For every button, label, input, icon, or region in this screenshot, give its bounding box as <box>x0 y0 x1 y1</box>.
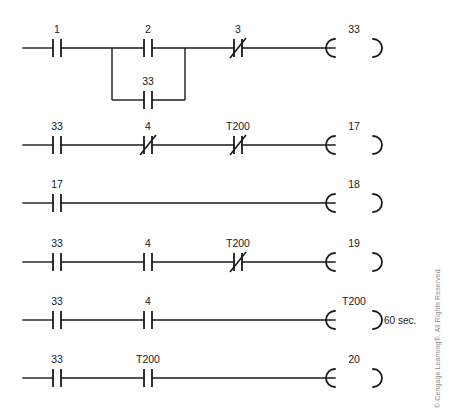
rung-6-contact-1-33[interactable]: 33 <box>51 353 63 387</box>
rung-2-coil-17-label: 17 <box>348 120 360 132</box>
rung-4-contact-1-33-label: 33 <box>51 237 63 249</box>
rung-6-contact-2-t200-label: T200 <box>136 353 160 365</box>
rung-5-coil-t200-right-arc <box>373 311 382 329</box>
rung-6-coil-20-label: 20 <box>348 353 360 365</box>
rung-2-coil-17-right-arc <box>373 136 382 154</box>
rung-2-coil-17[interactable]: 17 <box>326 120 382 154</box>
rung-1-coil-33-label: 33 <box>348 23 360 35</box>
rung-1-contact-1-1[interactable]: 1 <box>53 23 61 57</box>
rung-4-contact-2-4-label: 4 <box>145 237 151 249</box>
rung-2-contact-3-t200[interactable]: T200 <box>226 120 250 155</box>
rung-6-contact-1-33-label: 33 <box>51 353 63 365</box>
rung-3-coil-18-label: 18 <box>348 178 360 190</box>
rung-4-contact-2-4[interactable]: 4 <box>144 237 152 271</box>
rung-1-contact-3-3-label: 3 <box>235 23 241 35</box>
rung-2-contact-1-33[interactable]: 33 <box>51 120 63 154</box>
rung-4-coil-19[interactable]: 19 <box>326 237 382 271</box>
rung-1-coil-33[interactable]: 33 <box>326 23 382 57</box>
rung-3-coil-18-right-arc <box>373 194 382 212</box>
rung-1-coil-33-right-arc <box>373 39 382 57</box>
rung-2-contact-2-4[interactable]: 4 <box>140 120 156 155</box>
rung-5-coil-t200-label: T200 <box>342 295 366 307</box>
rung-1-contact-2-2-label: 2 <box>145 23 151 35</box>
rung-2-contact-2-4-label: 4 <box>145 120 151 132</box>
rung-2-contact-1-33-label: 33 <box>51 120 63 132</box>
rung-1: 1233333 <box>23 23 382 109</box>
copyright-notice: © Cengage Learning®. All Rights Reserved… <box>434 267 442 408</box>
rung-5: 334T20060 sec. <box>23 295 416 329</box>
rung-4-coil-19-label: 19 <box>348 237 360 249</box>
rung-4-coil-19-right-arc <box>373 253 382 271</box>
rung-1-branch: 33 <box>112 48 185 109</box>
rung-1-contact-2-2[interactable]: 2 <box>144 23 152 57</box>
rung-3: 1718 <box>23 178 382 212</box>
rung-4-contact-3-t200[interactable]: T200 <box>226 237 250 272</box>
rung-5-contact-1-33-label: 33 <box>51 295 63 307</box>
rung-5-contact-1-33[interactable]: 33 <box>51 295 63 329</box>
rungs-group: 1233333334T200171718334T20019334T20060 s… <box>23 23 416 387</box>
rung-6-contact-2-t200[interactable]: T200 <box>136 353 160 387</box>
rung-1-branch-contact-33-label: 33 <box>142 75 154 87</box>
rung-2: 334T20017 <box>23 120 382 155</box>
rung-1-contact-3-3[interactable]: 3 <box>230 23 246 58</box>
rung-5-contact-2-4-label: 4 <box>145 295 151 307</box>
rung-4-contact-3-t200-label: T200 <box>226 237 250 249</box>
rung-1-contact-1-1-label: 1 <box>54 23 60 35</box>
rung-1-branch-contact-33[interactable]: 33 <box>142 75 154 109</box>
ladder-logic-diagram: 1233333334T200171718334T20019334T20060 s… <box>0 0 452 412</box>
rung-3-contact-1-17[interactable]: 17 <box>51 178 63 212</box>
rung-6: 33T20020 <box>23 353 382 387</box>
rung-3-contact-1-17-label: 17 <box>51 178 63 190</box>
rung-5-coil-t200-note: 60 sec. <box>384 315 416 326</box>
rung-6-coil-20[interactable]: 20 <box>326 353 382 387</box>
rung-2-contact-3-t200-label: T200 <box>226 120 250 132</box>
rung-4-contact-1-33[interactable]: 33 <box>51 237 63 271</box>
rung-5-contact-2-4[interactable]: 4 <box>144 295 152 329</box>
rung-5-coil-t200[interactable]: T20060 sec. <box>326 295 416 329</box>
rung-4: 334T20019 <box>23 237 382 272</box>
rung-6-coil-20-right-arc <box>373 369 382 387</box>
rung-3-coil-18[interactable]: 18 <box>326 178 382 212</box>
